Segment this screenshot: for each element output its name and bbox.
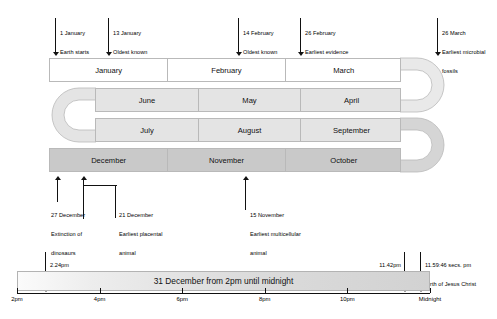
timeline-ticklabel-8pm: 8pm — [253, 296, 277, 302]
month-label: September — [301, 119, 402, 141]
month-label: May — [199, 89, 300, 111]
calendar-snake: January February March June May April — [0, 0, 497, 190]
month-label: June — [96, 89, 198, 111]
timeline-ticklabel-midnight: Midnight — [410, 296, 450, 302]
timeline-bar-label: 31 December from 2pm until midnight — [18, 272, 429, 290]
event-label-21-december: 21 December Earliest placental animal — [119, 199, 163, 269]
month-label: March — [286, 59, 402, 81]
month-label: August — [199, 119, 300, 141]
cosmic-calendar-diagram: 1 January Earth starts forming 13 Januar… — [0, 0, 497, 319]
timeline-ticklabel-10pm: 10pm — [335, 296, 359, 302]
calendar-cell-may: May — [198, 89, 300, 111]
calendar-cell-december: December — [50, 149, 167, 171]
month-label: February — [168, 59, 284, 81]
timeline-bar: 31 December from 2pm until midnight — [17, 271, 430, 291]
timeline-tick-6pm — [182, 288, 183, 293]
calendar-cell-october: October — [285, 149, 402, 171]
timeline-label-11-59-46pm: 11.59:46 secs. pm Birth of Jesus Christ — [425, 249, 476, 300]
calendar-cell-february: February — [167, 59, 284, 81]
calendar-cell-july: July — [96, 119, 198, 141]
month-label: January — [50, 59, 167, 81]
timeline-tick-2pm — [17, 288, 18, 293]
calendar-row-3: July August September — [95, 118, 401, 142]
timeline-ticklabel-6pm: 6pm — [170, 296, 194, 302]
month-label: December — [50, 149, 167, 171]
calendar-cell-april: April — [300, 89, 402, 111]
calendar-row-1: January February March — [49, 58, 401, 82]
timeline-ticklabel-2pm: 2pm — [5, 296, 29, 302]
calendar-row-4: December November October — [49, 148, 401, 172]
timeline-axis — [17, 293, 430, 294]
timeline-tick-10pm — [347, 288, 348, 293]
timeline-tick-8pm — [265, 288, 266, 293]
calendar-cell-august: August — [198, 119, 300, 141]
timeline-tick-4pm — [100, 288, 101, 293]
event-elbow-21-december-drop — [115, 185, 116, 218]
calendar-cell-june: June — [96, 89, 198, 111]
month-label: July — [96, 119, 198, 141]
calendar-cell-march: March — [285, 59, 402, 81]
calendar-cell-january: January — [50, 59, 167, 81]
month-label: November — [168, 149, 284, 171]
month-label: April — [301, 89, 402, 111]
calendar-row-2: June May April — [95, 88, 401, 112]
timeline-tick-midnight — [430, 288, 431, 293]
month-label: October — [286, 149, 402, 171]
calendar-cell-september: September — [300, 119, 402, 141]
timeline-ticklabel-4pm: 4pm — [88, 296, 112, 302]
event-elbow-21-december — [83, 185, 117, 219]
calendar-cell-november: November — [167, 149, 284, 171]
